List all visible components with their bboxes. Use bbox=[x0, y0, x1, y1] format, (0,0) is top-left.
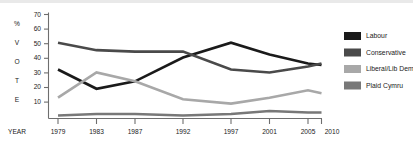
legend-label: Plaid Cymru bbox=[366, 82, 403, 90]
y-tick-label: 10 bbox=[34, 98, 42, 105]
y-tick-label: 40 bbox=[34, 54, 42, 61]
y-axis-tick-labels: 70 60 50 40 30 20 10 bbox=[34, 11, 42, 105]
series-line bbox=[58, 111, 322, 115]
x-tick-label: 2001 bbox=[262, 128, 277, 135]
x-tick-label: 1979 bbox=[51, 128, 66, 135]
y-tick-label: 20 bbox=[34, 83, 42, 90]
x-tick-label: 1997 bbox=[224, 128, 239, 135]
x-tick-label: 1987 bbox=[128, 128, 143, 135]
x-tick-label: 1992 bbox=[176, 128, 191, 135]
legend-label: Liberal/Lib Dem bbox=[366, 65, 413, 72]
y-tick-label: 50 bbox=[34, 40, 42, 47]
y-tick-label: 70 bbox=[34, 11, 42, 18]
y-axis-letter: O bbox=[14, 58, 19, 65]
series-lines bbox=[58, 43, 322, 116]
legend-swatch bbox=[344, 65, 361, 73]
legend-label: Conservative bbox=[366, 49, 406, 56]
y-axis-letter: V bbox=[15, 39, 20, 46]
y-axis-title: % V O T E bbox=[14, 20, 20, 103]
y-tick-label: 60 bbox=[34, 25, 42, 32]
x-axis-ticks bbox=[58, 119, 322, 125]
legend-label: Labour bbox=[366, 32, 388, 39]
x-tick-label: 1983 bbox=[89, 128, 104, 135]
y-tick-label: 30 bbox=[34, 69, 42, 76]
legend-swatch bbox=[344, 49, 361, 57]
x-axis-tick-labels: 1979 1983 1987 1992 1997 2001 2005 2010 bbox=[51, 128, 340, 135]
x-tick-label: 2010 bbox=[325, 128, 340, 135]
legend-swatch bbox=[344, 82, 361, 90]
y-axis-letter: E bbox=[15, 96, 20, 103]
y-axis-letter: T bbox=[15, 77, 19, 84]
vote-share-line-chart: % V O T E 70 60 50 40 30 20 10 bbox=[0, 0, 413, 144]
chart-legend: LabourConservativeLiberal/Lib DemPlaid C… bbox=[344, 32, 413, 90]
y-axis-letter: % bbox=[14, 20, 20, 27]
y-axis-ticks bbox=[44, 15, 49, 103]
x-tick-label: 2005 bbox=[301, 128, 316, 135]
chart-plot-area: % V O T E 70 60 50 40 30 20 10 bbox=[0, 0, 413, 144]
x-axis-title: YEAR bbox=[8, 128, 26, 135]
legend-swatch bbox=[344, 32, 361, 40]
